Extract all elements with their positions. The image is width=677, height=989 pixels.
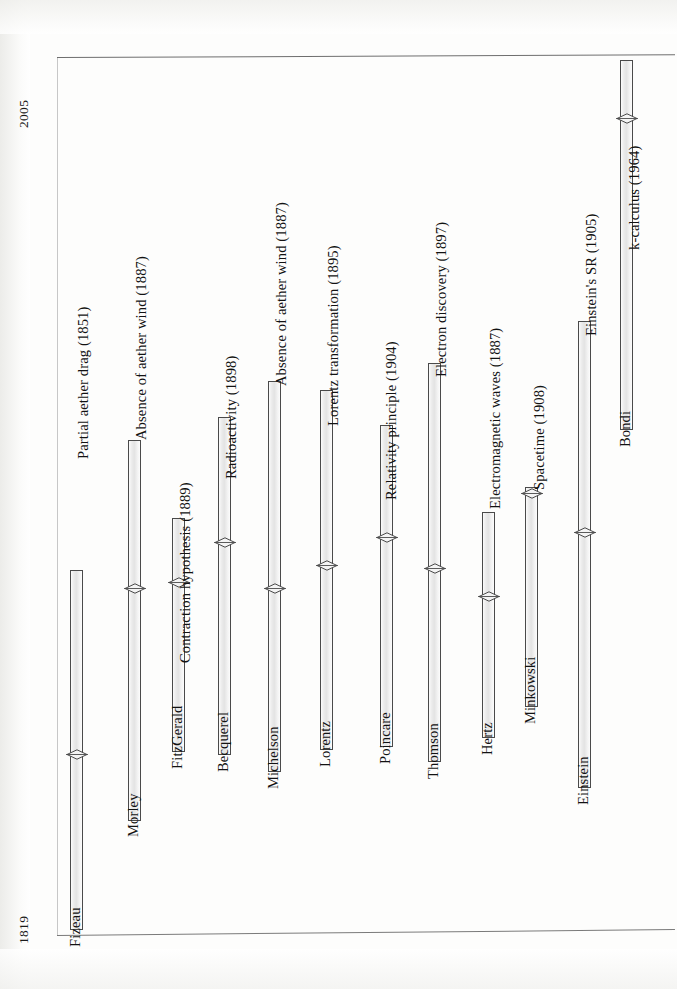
timeline-bar[interactable] <box>320 390 333 750</box>
person-label: Lorentz <box>317 721 334 767</box>
scan-edge-shading-top <box>0 0 677 34</box>
axis-label-year-min: 1819 <box>16 916 32 944</box>
person-label: Becquerel <box>215 712 232 772</box>
event-label: Spacetime (1908) <box>531 385 548 490</box>
person-label: Thomson <box>425 723 442 779</box>
timeline-bar[interactable] <box>578 321 591 788</box>
event-label: Absence of aether wind (1887) <box>273 202 290 386</box>
event-label: Contraction hypothesis (1889) <box>177 482 194 663</box>
axis-label-year-max: 2005 <box>16 100 32 128</box>
timeline-bar[interactable] <box>268 381 281 772</box>
event-label: Electron discovery (1897) <box>433 222 450 377</box>
timeline-bar[interactable] <box>70 570 83 930</box>
person-label: FitzGerald <box>169 705 186 769</box>
event-label: Einstein's SR (1905) <box>583 214 600 336</box>
scan-edge-shading-bottom <box>0 949 677 989</box>
axis-line-left <box>57 57 58 936</box>
event-label: Relativity principle (1904) <box>383 341 400 500</box>
person-label: Fizeau <box>67 907 84 947</box>
event-label: Partial aether drag (1851) <box>75 307 92 459</box>
scan-edge-shading-left <box>0 0 30 989</box>
scanned-page-background <box>0 0 677 989</box>
event-label: Electromagnetic waves (1887) <box>487 328 504 509</box>
timeline-bar[interactable] <box>428 363 441 762</box>
person-label: Minkowski <box>522 657 539 724</box>
event-label: k-calculus (1964) <box>626 146 643 250</box>
person-label: Hertz <box>479 722 496 755</box>
event-label: Radioactivity (1898) <box>223 356 240 479</box>
person-label: Einstein <box>575 756 592 805</box>
person-label: Michelson <box>265 726 282 789</box>
event-label: Absence of aether wind (1887) <box>133 256 150 440</box>
person-label: Bondi <box>617 411 634 447</box>
timeline-bar[interactable] <box>482 512 495 738</box>
timeline-bar[interactable] <box>128 440 141 821</box>
person-label: Poincare <box>377 712 394 764</box>
person-label: Morley <box>125 793 142 837</box>
event-label: Lorentz transformation (1895) <box>325 245 342 426</box>
